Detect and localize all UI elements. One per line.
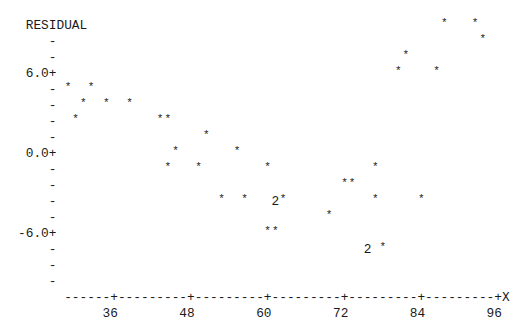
x-axis-line: - [241,290,249,306]
data-point-star: * [371,159,379,175]
x-axis-line: - [164,290,172,306]
plot-row: -* [0,50,528,66]
y-tick-mark: - [49,258,57,274]
y-tick-label: 6 [26,226,34,242]
y-tick-mark: - [49,82,57,98]
x-axis-title: X [502,290,510,306]
data-point-star: * [264,223,272,239]
x-axis-line: - [310,290,318,306]
plot-row: RESIDUAL** [0,18,528,34]
y-tick-label: . [33,226,41,242]
plot-row: - [0,274,528,290]
y-tick-mark: - [49,178,57,194]
x-axis-line: - [295,290,303,306]
y-tick-mark: - [49,130,57,146]
x-axis-line: - [487,290,495,306]
y-tick-label: 0 [41,146,49,162]
x-axis-line: - [371,290,379,306]
data-point-star: * [272,223,280,239]
y-axis-title: U [64,18,72,34]
data-point-star: * [72,111,80,127]
x-axis-line: - [149,290,157,306]
x-axis-line: - [302,290,310,306]
x-tick-label: 0 [264,306,272,322]
data-point-star: * [371,191,379,207]
data-point-star: * [325,207,333,223]
x-axis-line: - [287,290,295,306]
data-point-star: * [440,15,448,31]
x-tick-mark: + [187,290,195,306]
x-axis-line: - [72,290,80,306]
y-tick-mark: - [49,114,57,130]
data-point-star: * [164,159,172,175]
data-point-star: * [80,95,88,111]
y-axis-title: L [80,18,88,34]
x-axis-line: - [172,290,180,306]
y-tick-mark: - [49,50,57,66]
data-point-star: * [64,79,72,95]
x-axis-line: - [87,290,95,306]
y-tick-mark: - [49,274,57,290]
data-point-star: * [341,175,349,191]
x-axis-line: - [325,290,333,306]
data-point-star: * [279,191,287,207]
plot-row: 6.0+** [0,66,528,82]
x-axis-line: - [225,290,233,306]
x-tick-mark: + [264,290,272,306]
data-point-multiplicity: 2 [364,242,372,258]
y-tick-label: + [49,226,57,242]
x-axis-line: - [64,290,72,306]
x-axis-line: - [318,290,326,306]
x-tick-label: 8 [410,306,418,322]
plot-row: -6.0+** [0,226,528,242]
plot-row: -**2*** [0,194,528,210]
y-tick-label: 0 [26,146,34,162]
x-tick-label: 4 [179,306,187,322]
x-axis-line: - [379,290,387,306]
x-axis-line: - [256,290,264,306]
x-axis-line: - [133,290,141,306]
y-tick-mark: - [49,98,57,114]
y-tick-label: . [33,66,41,82]
x-axis-line: - [471,290,479,306]
data-point-star: * [479,31,487,47]
x-tick-label: 6 [110,306,118,322]
x-axis-line: - [233,290,241,306]
x-axis-line: - [179,290,187,306]
x-axis-line: - [95,290,103,306]
x-tick-label: 4 [417,306,425,322]
data-point-star: * [379,239,387,255]
y-axis-title: D [56,18,64,34]
y-axis-title: A [72,18,80,34]
x-axis-line: - [126,290,134,306]
x-tick-mark: + [110,290,118,306]
plot-row: -* [0,130,528,146]
residual-plot: RESIDUAL**-*-*6.0+**-**-***-***-*0.0+**-… [0,0,528,333]
y-axis-title: S [41,18,49,34]
plot-row: -*** [0,114,528,130]
y-axis-title: E [33,18,41,34]
x-axis-line: - [156,290,164,306]
x-tick-mark: + [341,290,349,306]
data-point-star: * [471,15,479,31]
x-tick-labels: 364860728496 [0,306,528,322]
x-axis-line: - [402,290,410,306]
plot-row: -** [0,178,528,194]
x-axis-line: - [333,290,341,306]
x-tick-label: 2 [341,306,349,322]
x-axis-line: - [248,290,256,306]
x-axis-line: - [464,290,472,306]
x-axis-line: - [103,290,111,306]
plot-row: -2* [0,242,528,258]
data-point-star: * [264,159,272,175]
x-tick-label: 6 [256,306,264,322]
x-axis-line: - [210,290,218,306]
x-tick-label: 9 [487,306,495,322]
x-axis-line: - [479,290,487,306]
x-axis-line: - [195,290,203,306]
x-tick-label: 7 [333,306,341,322]
y-tick-mark: - [49,162,57,178]
data-point-star: * [172,143,180,159]
x-axis-line: - [440,290,448,306]
y-tick-label: 0 [41,66,49,82]
